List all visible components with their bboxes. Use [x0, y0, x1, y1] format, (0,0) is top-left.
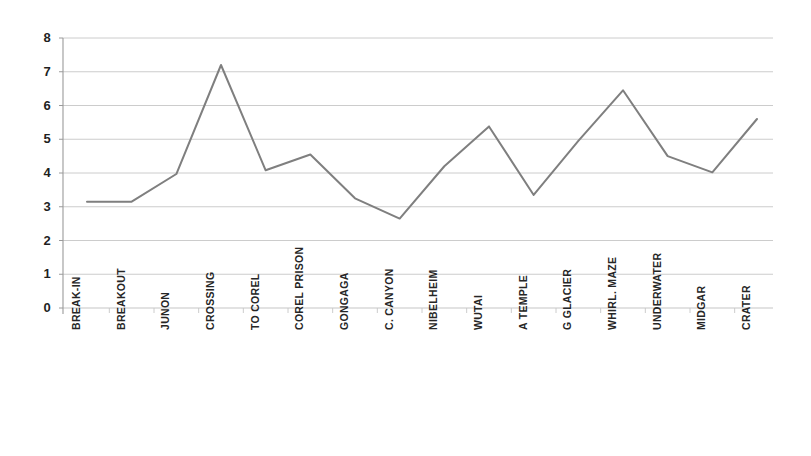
series-polyline — [87, 65, 757, 219]
data-series-line — [87, 65, 757, 219]
chart-plot-area — [0, 0, 811, 456]
x-axis-ticks — [109, 308, 734, 313]
line-chart: 012345678 BREAK-INBREAKOUTJUNONCROSSINGT… — [0, 0, 811, 456]
gridlines — [63, 38, 773, 308]
y-axis-line — [59, 38, 63, 314]
